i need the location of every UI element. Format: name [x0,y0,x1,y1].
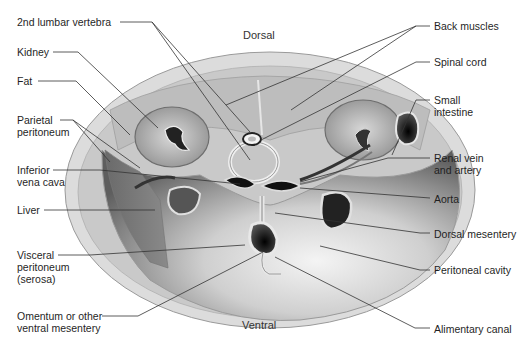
label-small-intestine: Small intestine [434,94,473,118]
label-back-muscles: Back muscles [434,20,499,32]
abdominal-cross-section-diagram: Dorsal Ventral 2nd lumbar vertebra Kidne… [0,0,525,351]
label-spinal-cord: Spinal cord [434,56,487,68]
label-aorta: Aorta [434,193,459,205]
orientation-ventral: Ventral [242,319,276,331]
label-kidney: Kidney [17,46,49,58]
left-kidney [135,107,209,167]
label-renal-vein-artery: Renal vein and artery [434,152,484,176]
label-visceral-peritoneum: Visceral peritoneum (serosa) [17,249,70,285]
spinal-cord [243,133,261,145]
orientation-dorsal: Dorsal [243,29,275,41]
label-2nd-lumbar-vertebra: 2nd lumbar vertebra [17,16,111,28]
label-liver: Liver [17,204,40,216]
label-omentum: Omentum or other ventral mesentery [17,310,102,334]
label-fat: Fat [17,75,32,87]
label-inferior-vena-cava: Inferior vena cava [17,164,65,188]
label-parietal-peritoneum: Parietal peritoneum [17,114,70,138]
label-alimentary-canal: Alimentary canal [434,323,512,335]
vertebra [230,142,278,182]
label-peritoneal-cavity: Peritoneal cavity [434,264,511,276]
label-dorsal-mesentery: Dorsal mesentery [434,228,516,240]
